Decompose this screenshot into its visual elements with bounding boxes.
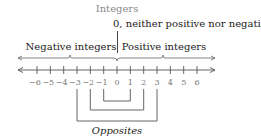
- tick-labels: −6 −5 −4 −3 −2 −1 0 1 2 3 4 5 6: [29, 78, 199, 87]
- tick-label: 6: [194, 78, 199, 87]
- tick-label: 4: [168, 78, 173, 87]
- opposite-bracket-1: [104, 89, 131, 101]
- tick-label: 0: [114, 78, 119, 87]
- tick-label: −3: [69, 78, 81, 87]
- tick-label: 3: [154, 78, 159, 87]
- diagram-title: Integers: [96, 3, 139, 14]
- integers-diagram: Integers 0, neither positive nor negativ…: [0, 0, 261, 137]
- zero-note: 0, neither positive nor negative: [113, 18, 261, 29]
- tick-label: 2: [141, 78, 146, 87]
- tick-label: −4: [56, 78, 68, 87]
- tick-label: −1: [96, 78, 108, 87]
- classification-brace: [18, 55, 215, 61]
- negative-integers-label: Negative integers: [26, 41, 117, 52]
- opposite-bracket-2: [90, 89, 143, 110]
- tick-label: −5: [42, 78, 54, 87]
- tick-label: 1: [128, 78, 133, 87]
- tick-label: −6: [29, 78, 41, 87]
- number-line: [18, 66, 215, 74]
- opposites-label: Opposites: [92, 125, 142, 136]
- tick-label: 5: [181, 78, 186, 87]
- opposite-bracket-3: [77, 89, 157, 121]
- positive-integers-label: Positive integers: [122, 41, 206, 52]
- opposites-brackets: [77, 89, 157, 121]
- tick-label: −2: [82, 78, 94, 87]
